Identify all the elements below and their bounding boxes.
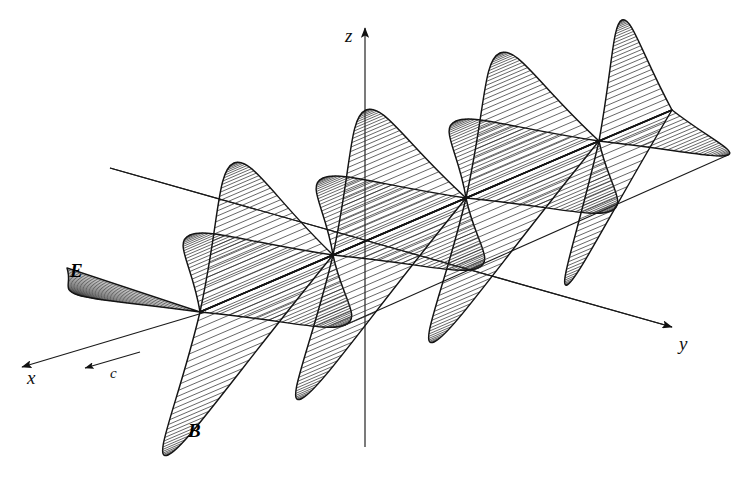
b-lobe-0-hatch-13 <box>173 384 230 409</box>
b-lobe-7-hatch-2 <box>602 99 667 126</box>
e-lobe-7-hatch-16 <box>703 146 723 155</box>
b-lobe-5-hatch-23 <box>491 55 514 65</box>
e-lobe-7-hatch-14 <box>694 143 719 154</box>
e-lobe-7-hatch-1 <box>608 113 676 142</box>
b-lobe-1-hatch-2 <box>204 244 322 294</box>
e-lobe-4-hatching <box>316 176 456 250</box>
b-lobe-3-hatch-3 <box>338 182 449 229</box>
b-lobe-1-hatch-18 <box>220 176 259 193</box>
e-lobe-4-hatch-1 <box>332 196 456 249</box>
b-lobe-2-hatch-3 <box>326 234 437 281</box>
b-lobe-0-hatch-23 <box>163 440 186 450</box>
e-lobe-0-hatching <box>68 270 192 311</box>
vector-label-c: c <box>110 365 117 381</box>
axis-label-x: x <box>26 367 36 388</box>
b-lobe-3-hatch-19 <box>353 119 388 134</box>
b-lobe-4-hatch-22 <box>429 323 455 334</box>
e-lobe-7-hatch-17 <box>707 147 725 155</box>
b-lobe-1-hatch-13 <box>216 192 273 217</box>
b-lobe-5-hatch-18 <box>486 65 525 82</box>
b-lobe-2-hatch-23 <box>296 384 319 394</box>
b-lobe-7-hatching <box>600 20 669 134</box>
em-wave-svg: xyzcEB <box>0 0 740 482</box>
axis-label-z: z <box>344 25 353 46</box>
b-lobe-7-hatch-5 <box>605 84 659 107</box>
e-lobe-7-hatch-6 <box>648 127 696 147</box>
e-lobe-1-hatch-5 <box>246 277 339 317</box>
b-lobe-7-hatch-12 <box>610 53 644 67</box>
b-lobe-4-hatch-23 <box>429 327 452 337</box>
b-lobe-7-hatch-11 <box>610 57 646 72</box>
b-lobe-0-hatch-7 <box>185 332 271 369</box>
b-lobe-2-hatch-20 <box>297 371 329 385</box>
b-lobe-1-hatch-12 <box>216 196 278 222</box>
axis-line-y <box>110 168 672 327</box>
axis-line-x <box>22 312 206 367</box>
b-lobe-0-hatch-22 <box>163 436 189 447</box>
b-lobe-3-hatch-23 <box>357 112 380 122</box>
b-lobe-4-hatch-20 <box>430 314 462 328</box>
b-lobe-1-hatch-16 <box>219 181 265 201</box>
b-lobe-2-hatch-17 <box>300 355 342 373</box>
b-lobe-2-hatch-18 <box>299 361 338 378</box>
b-lobe-3-hatch-12 <box>348 141 410 167</box>
b-lobe-7-hatch-4 <box>604 89 661 113</box>
axis-label-y: y <box>677 333 688 354</box>
b-lobe-0-hatch-4 <box>191 301 295 346</box>
b-lobe-7-hatch-1 <box>600 104 669 133</box>
e-lobe-6-hatch-1 <box>465 139 589 192</box>
b-lobe-7-hatch-9 <box>608 65 650 83</box>
b-lobe-1-hatch-23 <box>225 165 248 175</box>
e-lobe-6-hatch-11 <box>454 126 513 151</box>
e-lobe-7-hatch-8 <box>661 132 702 149</box>
b-lobe-3-hatch-20 <box>354 117 386 131</box>
e-lobe-0-hatch-2 <box>68 272 184 310</box>
e-lobe-7-hatch-15 <box>699 144 722 154</box>
b-lobe-7-hatch-10 <box>609 61 648 77</box>
b-lobe-1-hatch-20 <box>222 171 254 185</box>
e-lobe-7-hatch-7 <box>655 129 699 148</box>
b-lobe-2-hatch-12 <box>308 320 370 346</box>
b-lobe-5-hatch-12 <box>482 84 544 110</box>
b-lobe-4-hatch-17 <box>433 298 475 316</box>
b-lobe-0-hatch-14 <box>171 392 224 415</box>
b-lobe-0-hatch-11 <box>176 369 242 397</box>
e-lobe-5-hatch-5 <box>512 163 605 203</box>
field-label-e: E <box>69 260 83 281</box>
b-lobe-3-hatch-18 <box>352 122 391 139</box>
b-lobe-5-hatch-14 <box>483 77 536 100</box>
b-lobe-3-hatch-13 <box>349 137 406 162</box>
field-label-b: B <box>187 420 201 441</box>
b-lobe-2-hatch-21 <box>296 376 325 388</box>
b-lobe-5-hatch-13 <box>482 80 539 105</box>
e-lobe-3-hatch-5 <box>379 220 472 260</box>
b-lobe-0-hatch-3 <box>193 290 304 337</box>
b-lobe-6-hatch-2 <box>595 131 660 158</box>
e-lobe-7-hatch-11 <box>679 138 711 152</box>
e-lobe-2-hatch-12 <box>187 238 241 261</box>
b-lobe-4-hatch-13 <box>439 271 496 296</box>
e-lobe-7-hatch-18 <box>710 148 726 155</box>
e-lobe-0 <box>67 268 200 312</box>
b-lobe-4-hatch-18 <box>432 304 471 321</box>
b-lobe-3 <box>333 109 466 255</box>
b-lobe-1-hatch-17 <box>219 178 261 196</box>
b-lobe-5-hatch-17 <box>485 68 527 86</box>
e-lobe-6-hatch-12 <box>453 124 507 147</box>
b-lobe-1-hatch-19 <box>221 173 256 188</box>
b-lobe-7-hatch-6 <box>606 79 656 100</box>
b-lobe-7-hatch-8 <box>607 69 651 88</box>
b-lobe-5-hatch-19 <box>487 62 522 77</box>
b-lobe-4-hatch-21 <box>429 319 458 331</box>
e-lobe-4-hatch-11 <box>321 183 380 208</box>
b-lobe-3-hatch-17 <box>352 125 394 143</box>
b-lobe-6-hatch-5 <box>589 160 643 183</box>
b-lobe-1-hatching <box>202 162 327 303</box>
b-lobe-2-hatch-14 <box>304 335 357 358</box>
b-lobe-1-outline <box>200 162 333 312</box>
b-lobe-1-hatch-10 <box>214 204 285 234</box>
e-lobe-6-hatch-7 <box>458 131 538 165</box>
e-lobe-7-hatch-12 <box>685 140 715 153</box>
e-lobe-7-hatch-13 <box>690 141 717 153</box>
b-lobe-3-hatch-14 <box>349 134 402 157</box>
